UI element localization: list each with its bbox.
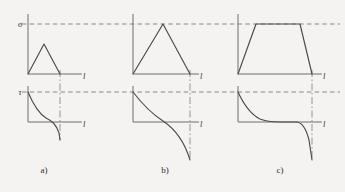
panel-a-lower-x-label: l <box>83 119 86 129</box>
panel-b-upper-x-label: l <box>200 71 203 81</box>
stress-distribution-diagram: l l a) l l b) <box>0 0 345 192</box>
panel-b-sigma-curve <box>133 24 190 74</box>
panel-a: l l a) <box>28 14 86 175</box>
panel-b: l l b) <box>133 14 203 175</box>
panel-a-upper-x-label: l <box>83 71 86 81</box>
panel-c-upper-x-label: l <box>323 71 326 81</box>
panel-c-caption: c) <box>277 165 284 175</box>
panel-a-tau-curve <box>28 92 60 140</box>
panel-b-lower-plot: l <box>133 86 203 160</box>
panel-b-tau-curve <box>133 92 190 160</box>
panel-a-sigma-curve <box>28 44 60 74</box>
panel-a-caption: a) <box>41 165 48 175</box>
tau-axis-label: τ <box>18 87 22 97</box>
panel-a-lower-plot: l <box>28 86 86 140</box>
panel-c: l l c) <box>238 14 326 175</box>
panel-c-tau-curve <box>238 92 312 160</box>
panel-b-lower-x-label: l <box>200 119 203 129</box>
panel-c-lower-plot: l <box>238 86 326 160</box>
figure-container: l l a) l l b) <box>0 0 345 192</box>
panel-c-lower-x-label: l <box>323 119 326 129</box>
panel-c-sigma-curve <box>238 24 312 74</box>
panel-b-caption: b) <box>161 165 169 175</box>
panel-c-upper-plot: l <box>238 14 326 81</box>
